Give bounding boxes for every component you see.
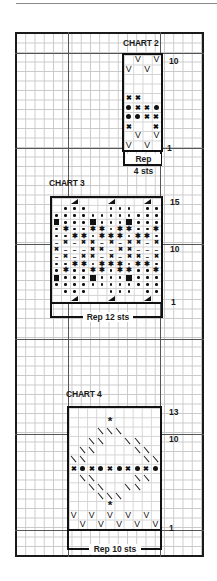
- v-stitch-icon: V: [133, 520, 142, 529]
- filled-square-icon: [52, 219, 61, 226]
- diagonal-slash-icon: [133, 473, 142, 482]
- cross-stitch-icon: ✖: [124, 464, 133, 473]
- small-dot-icon: [61, 274, 70, 281]
- cross-stitch-icon: ✖: [143, 103, 152, 113]
- triangle-icon: [107, 198, 116, 205]
- bullet-icon: [115, 464, 124, 473]
- chart4-row-label-top: 13: [169, 407, 178, 417]
- v-stitch-icon: V: [133, 131, 142, 141]
- chart2-grid: VVVV✖✖✖✖✖✖✖✖VVVV: [122, 53, 163, 152]
- star-stitch-icon: ✱: [79, 260, 88, 267]
- small-dot-icon: [107, 274, 116, 281]
- star-stitch-icon: ✱: [125, 267, 134, 274]
- triangle-icon: [107, 295, 116, 302]
- chart3-row-label-top: 15: [170, 197, 179, 207]
- grid-major-horizontal: [15, 148, 204, 149]
- diagonal-slash-icon: [133, 436, 142, 445]
- small-dot-icon: [79, 281, 88, 288]
- small-dot-icon: [52, 212, 61, 219]
- v-stitch-icon: V: [151, 520, 160, 529]
- star-stitch-icon: ✱: [152, 267, 161, 274]
- small-dot-icon: [107, 281, 116, 288]
- small-dot-icon: [134, 212, 143, 219]
- cross-stitch-icon: ✖: [105, 464, 114, 473]
- small-dot-icon: [152, 212, 161, 219]
- small-dot-icon: [52, 226, 61, 233]
- small-dot-icon: [97, 281, 106, 288]
- diagonal-slash-icon: [115, 492, 124, 501]
- asterisk-icon: *: [105, 501, 114, 510]
- small-dot-icon: [61, 212, 70, 219]
- small-dot-icon: [70, 281, 79, 288]
- chart4-grid: *✖✖✖✖✖*VVVVVVVVVV: [67, 406, 162, 531]
- v-stitch-icon: V: [96, 520, 105, 529]
- v-stitch-icon: V: [152, 55, 161, 65]
- filled-square-icon: [88, 274, 97, 281]
- bullet-icon: [96, 464, 105, 473]
- v-stitch-icon: V: [78, 520, 87, 529]
- chart4-row-label-bottom: 1: [169, 523, 174, 533]
- diagonal-slash-icon: [78, 473, 87, 482]
- diagonal-slash-icon: [142, 445, 151, 454]
- small-dot-icon: [52, 281, 61, 288]
- diagonal-slash-icon: [87, 436, 96, 445]
- small-dot-icon: [70, 267, 79, 274]
- diagonal-slash-icon: [142, 455, 151, 464]
- star-stitch-icon: ✱: [97, 267, 106, 274]
- grid-major-horizontal: [15, 53, 204, 54]
- small-dot-icon: [61, 288, 70, 295]
- small-dot-icon: [134, 274, 143, 281]
- small-dot-icon: [70, 288, 79, 295]
- triangle-icon: [143, 198, 152, 205]
- cross-stitch-icon: ✖: [152, 253, 161, 260]
- cross-stitch-icon: ✖: [124, 122, 133, 132]
- small-dot-icon: [152, 274, 161, 281]
- star-stitch-icon: ✱: [88, 267, 97, 274]
- chart3-grid: ✱✱✱✱✱✱✱✱✱✱✱✱✱–✖–✖✖–✖–✖✖–✖✖–––✖✖–✖✖––––✖–…: [50, 196, 163, 304]
- diagonal-slash-icon: [87, 482, 96, 491]
- chart3-row-label-bottom: 1: [171, 297, 176, 307]
- star-stitch-icon: ✱: [61, 267, 70, 274]
- cross-stitch-icon: ✖: [143, 112, 152, 122]
- small-dot-icon: [116, 212, 125, 219]
- small-dot-icon: [107, 212, 116, 219]
- v-stitch-icon: V: [142, 510, 151, 519]
- diagonal-slash-icon: [105, 427, 114, 436]
- v-stitch-icon: V: [143, 141, 152, 151]
- small-dot-icon: [116, 281, 125, 288]
- bullet-icon: [152, 103, 161, 113]
- cross-stitch-icon: ✖: [87, 464, 96, 473]
- triangle-icon: [70, 198, 79, 205]
- v-stitch-icon: V: [87, 510, 96, 519]
- v-stitch-icon: V: [105, 510, 114, 519]
- chart2-title: CHART 2: [123, 38, 158, 48]
- v-stitch-icon: V: [115, 520, 124, 529]
- star-stitch-icon: ✱: [116, 267, 125, 274]
- cross-stitch-icon: ✖: [69, 464, 78, 473]
- star-stitch-icon: ✱: [107, 260, 116, 267]
- small-dot-icon: [125, 281, 134, 288]
- small-dot-icon: [97, 274, 106, 281]
- chart4-repeat-label: Rep 10 sts: [89, 544, 141, 554]
- diagonal-slash-icon: [96, 436, 105, 445]
- diagonal-slash-icon: [96, 482, 105, 491]
- chart2-row-label-top: 10: [169, 56, 178, 66]
- v-stitch-icon: V: [152, 131, 161, 141]
- small-dot-icon: [134, 267, 143, 274]
- diagonal-slash-icon: [133, 445, 142, 454]
- small-dot-icon: [152, 205, 161, 212]
- diagonal-slash-icon: [96, 427, 105, 436]
- cross-stitch-icon: ✖: [124, 93, 133, 103]
- small-dot-icon: [125, 212, 134, 219]
- cross-stitch-icon: ✖: [61, 253, 70, 260]
- small-dot-icon: [143, 205, 152, 212]
- small-dot-icon: [61, 281, 70, 288]
- small-dot-icon: [107, 219, 116, 226]
- small-dot-icon: [79, 274, 88, 281]
- chart3-title: CHART 3: [49, 178, 84, 188]
- small-dot-icon: [79, 288, 88, 295]
- filled-square-icon: [125, 274, 134, 281]
- small-dot-icon: [79, 267, 88, 274]
- cross-stitch-icon: ✖: [142, 464, 151, 473]
- bullet-icon: [133, 464, 142, 473]
